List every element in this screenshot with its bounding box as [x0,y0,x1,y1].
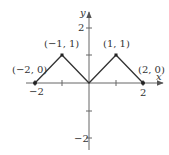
x-tick-label-neg2: −2 [29,86,44,97]
point-label-neg1-1: (−1, 1) [44,38,79,49]
point-2-0 [141,81,145,85]
y-tick-label-pos2: 2 [78,22,84,33]
point-neg1-1 [61,54,64,57]
point-label-2-0: (2, 0) [138,64,165,75]
point-neg2-0 [33,81,37,85]
x-tick-label-pos2: 2 [140,87,146,98]
y-tick-label-neg2: −2 [74,133,89,144]
y-axis-label: y [79,7,86,18]
point-1-1 [115,54,118,57]
graph: y x −2 2 2 −2 (−2, 0) (−1, 1) (1, 1) (2,… [0,0,169,155]
point-label-neg2-0: (−2, 0) [12,64,47,75]
point-label-1-1: (1, 1) [103,38,130,49]
